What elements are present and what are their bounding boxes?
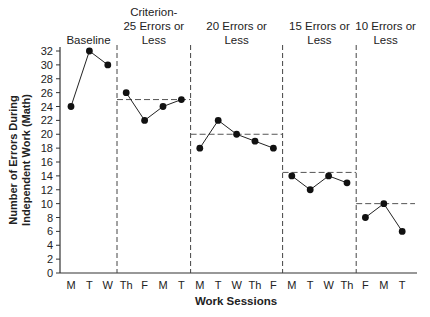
- y-tick-label: 12: [41, 184, 53, 196]
- y-tick-label: 8: [47, 212, 53, 224]
- x-tick-label: F: [362, 279, 369, 291]
- y-tick-label: 18: [41, 142, 53, 154]
- data-point: [270, 145, 277, 152]
- data-point: [215, 117, 222, 124]
- x-tick-label: W: [323, 279, 334, 291]
- y-tick-label: 10: [41, 198, 53, 210]
- y-tick-label: 26: [41, 87, 53, 99]
- x-tick-label: F: [141, 279, 148, 291]
- x-axis: MTWThFMTMTWThFMTWThFMT: [60, 273, 417, 291]
- phase-label: 15 Errors or: [289, 20, 350, 32]
- y-tick-label: 30: [41, 59, 53, 71]
- criterion-lines: [117, 100, 415, 204]
- y-tick-label: 4: [47, 239, 53, 251]
- x-tick-label: Th: [249, 279, 262, 291]
- data-point: [325, 172, 332, 179]
- data-point: [252, 138, 259, 145]
- x-tick-label: T: [86, 279, 93, 291]
- phase-change-lines: [117, 45, 356, 273]
- phase-label: Less: [224, 34, 249, 46]
- data-point: [123, 89, 130, 96]
- x-tick-label: F: [270, 279, 277, 291]
- x-tick-label: M: [379, 279, 388, 291]
- y-tick-label: 22: [41, 114, 53, 126]
- data-point: [104, 61, 111, 68]
- phase-label: Less: [142, 34, 167, 46]
- x-tick-label: T: [215, 279, 222, 291]
- series-line: [292, 176, 347, 190]
- y-axis-label: Number of Errors DuringIndependent Work …: [7, 94, 32, 226]
- data-point: [86, 48, 93, 55]
- y-tick-label: 2: [47, 253, 53, 265]
- y-axis-label-line: Independent Work (Math): [20, 94, 32, 226]
- phase-label: Less: [307, 34, 332, 46]
- y-tick-label: 16: [41, 156, 53, 168]
- y-tick-label: 20: [41, 128, 53, 140]
- x-tick-label: W: [231, 279, 242, 291]
- data-point: [68, 103, 75, 110]
- data-point: [344, 179, 351, 186]
- y-tick-label: 6: [47, 225, 53, 237]
- y-axis: 02468101214161820222426283032: [41, 45, 60, 279]
- data-series: [68, 48, 406, 235]
- y-tick-label: 0: [47, 267, 53, 279]
- y-tick-label: 14: [41, 170, 53, 182]
- y-axis-label-line: Number of Errors During: [7, 95, 19, 225]
- x-tick-label: Th: [341, 279, 354, 291]
- x-tick-label: T: [178, 279, 185, 291]
- x-axis-label: Work Sessions: [195, 295, 277, 307]
- series-line: [71, 51, 108, 107]
- phase-label: 20 Errors or: [206, 20, 267, 32]
- x-tick-label: M: [158, 279, 167, 291]
- phase-labels: BaselineCriterion-25 Errors orLess20 Err…: [66, 6, 416, 46]
- data-point: [380, 200, 387, 207]
- single-subject-line-chart: 02468101214161820222426283032 MTWThFMTMT…: [0, 0, 430, 317]
- data-point: [178, 96, 185, 103]
- data-point: [288, 172, 295, 179]
- x-tick-label: T: [307, 279, 314, 291]
- series-line: [365, 204, 402, 232]
- data-point: [233, 131, 240, 138]
- data-point: [160, 103, 167, 110]
- phase-label: Less: [373, 34, 398, 46]
- y-tick-label: 24: [41, 101, 53, 113]
- series-line: [126, 93, 181, 121]
- phase-label: Baseline: [66, 34, 110, 46]
- y-tick-label: 32: [41, 45, 53, 57]
- data-point: [362, 214, 369, 221]
- data-point: [307, 186, 314, 193]
- phase-label: Criterion-: [130, 6, 177, 18]
- data-point: [399, 228, 406, 235]
- x-tick-label: M: [66, 279, 75, 291]
- x-tick-label: T: [399, 279, 406, 291]
- x-tick-label: Th: [120, 279, 133, 291]
- x-tick-label: M: [195, 279, 204, 291]
- data-point: [141, 117, 148, 124]
- phase-label: 25 Errors or: [123, 20, 184, 32]
- y-axis-label-group: Number of Errors DuringIndependent Work …: [7, 94, 32, 226]
- phase-label: 10 Errors or: [355, 20, 416, 32]
- x-tick-label: W: [103, 279, 114, 291]
- y-tick-label: 28: [41, 73, 53, 85]
- x-tick-label: M: [287, 279, 296, 291]
- data-point: [196, 145, 203, 152]
